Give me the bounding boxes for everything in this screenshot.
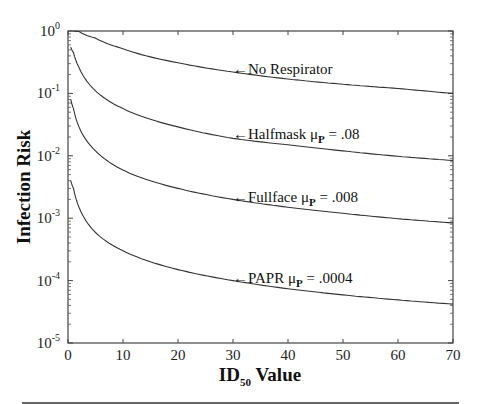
plot-frame — [68, 31, 453, 343]
x-tick-label: 20 — [171, 347, 186, 363]
x-axis-title: ID50 Value — [219, 364, 301, 388]
series-annotation-3: ←PAPR μP = .0004 — [233, 270, 353, 289]
x-tick-label: 60 — [391, 347, 406, 363]
y-tick-label: 10-5 — [37, 332, 60, 351]
plot-border — [68, 31, 453, 343]
series-annotation-2: ←Fullface μP = .008 — [233, 189, 358, 208]
x-tick-label: 0 — [64, 347, 72, 363]
x-tick-label: 40 — [281, 347, 296, 363]
infection-risk-chart: 010203040506070 10010-110-210-310-410-5 … — [0, 0, 479, 404]
y-tick-label: 10-3 — [37, 207, 60, 226]
x-tick-label: 70 — [446, 347, 461, 363]
y-tick-label: 10-4 — [37, 270, 60, 289]
series-annotation-0: ←No Respirator — [233, 61, 333, 77]
y-tick-label: 100 — [40, 20, 60, 39]
series-annotation-1: ←Halfmask μP = .08 — [233, 126, 360, 145]
y-tick-label: 10-1 — [37, 82, 60, 101]
y-tick-label: 10-2 — [37, 145, 60, 164]
series-annotations: ←No Respirator←Halfmask μP = .08←Fullfac… — [233, 61, 360, 289]
x-tick-label: 10 — [116, 347, 131, 363]
x-tick-label: 50 — [336, 347, 351, 363]
y-axis-title: Infection Risk — [13, 129, 34, 244]
x-tick-label: 30 — [226, 347, 241, 363]
